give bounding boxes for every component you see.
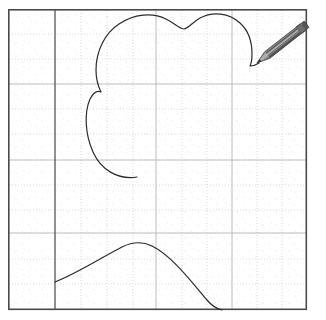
drawing-app-root <box>0 0 326 320</box>
drawing-canvas[interactable] <box>0 0 326 320</box>
